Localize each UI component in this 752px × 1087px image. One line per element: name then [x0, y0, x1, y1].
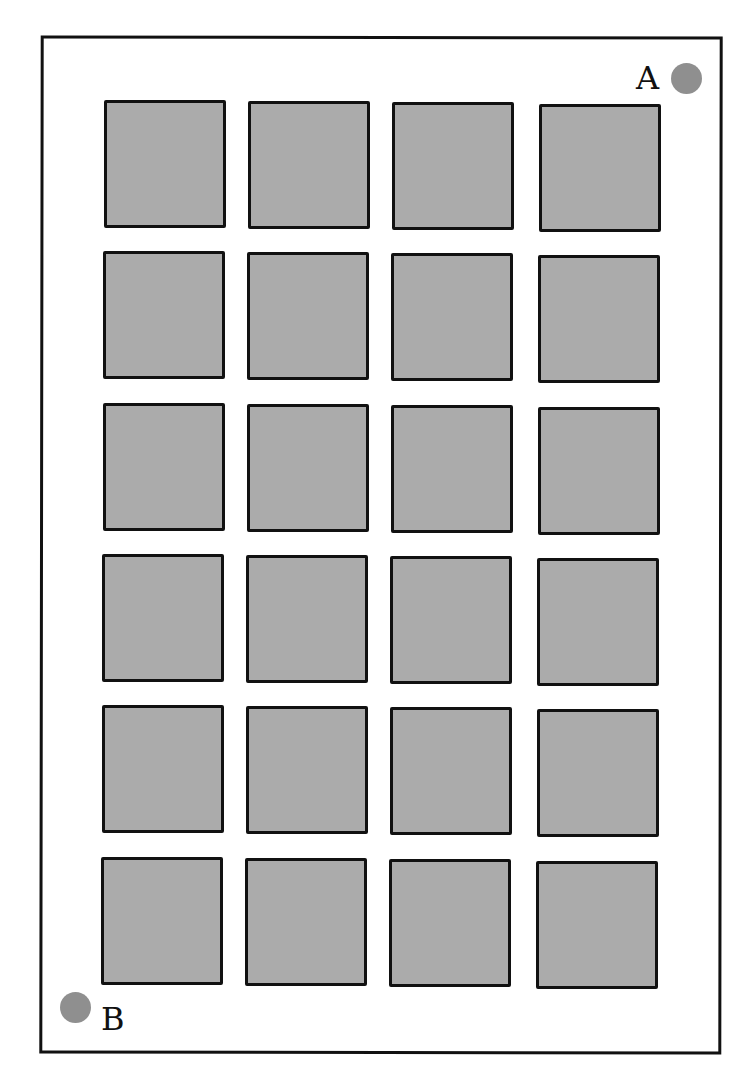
grid-cell-r4-c4: [537, 558, 659, 686]
grid-cell-r2-c3: [391, 253, 513, 381]
grid-cell-r2-c1: [103, 251, 225, 379]
grid-cell-r6-c2: [245, 858, 367, 986]
marker-dot-b: [60, 992, 91, 1023]
grid-cell-r5-c1: [102, 705, 224, 833]
grid-cell-r6-c3: [389, 859, 511, 987]
grid-cell-r4-c3: [390, 556, 512, 684]
grid-cell-r3-c1: [103, 403, 225, 531]
grid-cell-r3-c3: [391, 405, 513, 533]
grid-cell-r3-c4: [538, 407, 660, 535]
marker-label-a: A: [636, 62, 659, 94]
grid-cell-r5-c2: [246, 706, 368, 834]
grid-cell-r6-c1: [101, 857, 223, 985]
grid-cell-r1-c4: [539, 104, 661, 232]
grid-cell-r3-c2: [247, 404, 369, 532]
grid-cell-r4-c1: [102, 554, 224, 682]
grid-cell-r5-c4: [537, 709, 659, 837]
grid-cell-r6-c4: [536, 861, 658, 989]
marker-dot-a: [671, 63, 702, 94]
grid-cell-r2-c4: [538, 255, 660, 383]
grid-cell-r1-c3: [392, 102, 514, 230]
grid-cell-r1-c1: [104, 100, 226, 228]
grid-cell-r5-c3: [390, 707, 512, 835]
grid-cell-r4-c2: [246, 555, 368, 683]
grid-cell-r1-c2: [248, 101, 370, 229]
grid-cell-r2-c2: [247, 252, 369, 380]
marker-label-b: B: [101, 1003, 125, 1035]
